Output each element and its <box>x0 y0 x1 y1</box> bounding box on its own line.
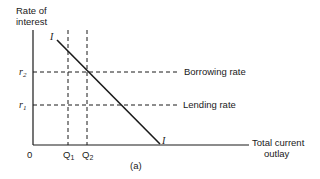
origin-label: 0 <box>27 149 32 160</box>
x-axis-label-line1: Total current <box>252 137 305 148</box>
x-axis-label-line2: outlay <box>264 148 290 159</box>
y-axis-label-line2: interest <box>16 16 48 27</box>
investment-chart: Rate of interest I I r2 r1 Borrowing rat… <box>0 0 320 179</box>
borrowing-rate-label: Borrowing rate <box>184 66 246 77</box>
curve-label-bottom: I <box>161 135 166 146</box>
lending-rate-label: Lending rate <box>183 99 236 110</box>
curve-label-top: I <box>49 31 54 42</box>
r1-label: r1 <box>19 99 26 112</box>
q2-label: Q2 <box>82 149 93 161</box>
investment-curve <box>57 40 160 144</box>
y-axis-label-line1: Rate of <box>16 5 47 16</box>
figure-caption: (a) <box>130 160 142 171</box>
r2-label: r2 <box>19 66 27 79</box>
q1-label: Q1 <box>63 149 74 161</box>
